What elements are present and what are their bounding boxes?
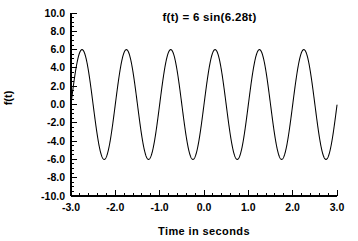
- sine-curve: [71, 50, 337, 160]
- x-axis-ticks: [71, 190, 337, 196]
- y-axis-ticks: [71, 13, 77, 196]
- chart-figure: f(t) = 6 sin(6.28t) f(t) Time in seconds…: [0, 0, 358, 241]
- plot-axes: [0, 0, 358, 241]
